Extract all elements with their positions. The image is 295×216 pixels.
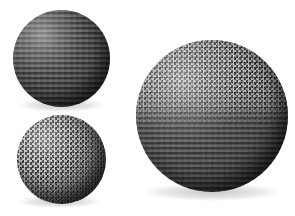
texture-speckle-noise	[136, 40, 288, 192]
sphere-striped[interactable]: Striped sphere	[13, 10, 110, 107]
texture-speckle-noise	[17, 115, 106, 204]
sphere-checker[interactable]: Checkerboard sphere	[17, 115, 106, 204]
render-canvas: Procedurally textured spheres Striped sp…	[0, 0, 295, 216]
sphere-combined[interactable]: Combined texture sphere	[136, 40, 288, 192]
page-title: Procedurally textured spheres	[0, 21, 1, 22]
texture-meridian-lines	[13, 10, 110, 107]
